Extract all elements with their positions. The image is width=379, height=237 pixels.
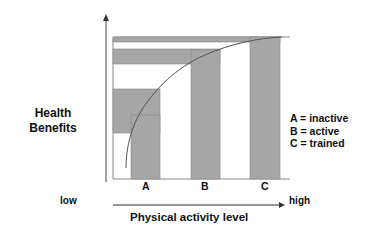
legend-item-b: B = active	[290, 125, 348, 138]
y-axis-label-line1: Health	[18, 106, 88, 121]
y-axis-label-line2: Benefits	[18, 121, 88, 136]
bar-a	[131, 115, 160, 179]
bar-c	[250, 37, 280, 179]
x-axis-arrow	[113, 202, 285, 208]
health-benefits-diagram: Health Benefits A = inactive B = active …	[0, 0, 379, 237]
x-axis-low-label: low	[60, 195, 77, 206]
y-axis-label: Health Benefits	[18, 106, 88, 136]
x-axis-arrowhead-icon	[279, 202, 285, 208]
y-axis-arrowhead-icon	[103, 14, 109, 21]
category-label-a: A	[142, 180, 150, 192]
legend-item-c: C = trained	[290, 137, 348, 150]
category-label-c: C	[261, 180, 269, 192]
y-axis	[103, 14, 109, 182]
category-label-b: B	[201, 180, 209, 192]
x-axis-high-label: high	[289, 195, 310, 206]
bar-b	[191, 50, 220, 179]
legend-item-a: A = inactive	[290, 112, 348, 125]
x-axis-label: Physical activity level	[130, 211, 248, 223]
legend: A = inactive B = active C = trained	[290, 112, 348, 150]
